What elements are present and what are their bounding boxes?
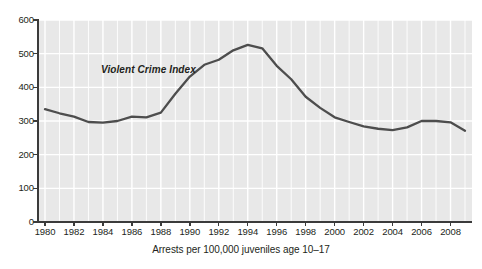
x-axis-tick-mark (421, 222, 422, 226)
x-axis-tick-mark (73, 222, 74, 226)
y-axis-tick-mark (33, 120, 37, 121)
x-axis-tick-label: 2008 (433, 226, 469, 237)
x-axis-tick-mark (44, 222, 45, 226)
x-axis-tick-mark (189, 222, 190, 226)
x-axis-tick-mark (102, 222, 103, 226)
y-axis-tick-label: 400 (2, 82, 34, 92)
y-axis-tick-mark (33, 87, 37, 88)
y-axis-line (37, 19, 39, 223)
series-annotation-label: Violent Crime Index (101, 64, 196, 75)
plot-area (38, 20, 472, 222)
y-axis-tick-mark (33, 53, 37, 54)
x-axis-title: Arrests per 100,000 juveniles age 10–17 (0, 244, 482, 255)
y-axis-tick-label: 600 (2, 15, 34, 25)
x-axis-tick-mark (334, 222, 335, 226)
y-axis-tick-mark (33, 19, 37, 20)
y-axis-tick-label: 500 (2, 49, 34, 59)
y-axis-tick-mark (33, 154, 37, 155)
y-axis-tick-label: 100 (2, 183, 34, 193)
x-axis-tick-mark (160, 222, 161, 226)
x-axis-tick-mark (218, 222, 219, 226)
x-axis-tick-mark (131, 222, 132, 226)
x-axis-tick-mark (305, 222, 306, 226)
y-axis-tick-mark (33, 221, 37, 222)
y-axis-tick-label: 200 (2, 150, 34, 160)
x-axis-tick-mark (392, 222, 393, 226)
chart-container: 0100200300400500600 19801982198419861988… (0, 0, 482, 269)
x-axis-tick-mark (363, 222, 364, 226)
y-axis-tick-label: 300 (2, 116, 34, 126)
plot-svg (38, 20, 472, 222)
x-axis-tick-mark (450, 222, 451, 226)
x-axis-tick-mark (247, 222, 248, 226)
y-axis-tick-mark (33, 188, 37, 189)
x-axis-tick-mark (276, 222, 277, 226)
